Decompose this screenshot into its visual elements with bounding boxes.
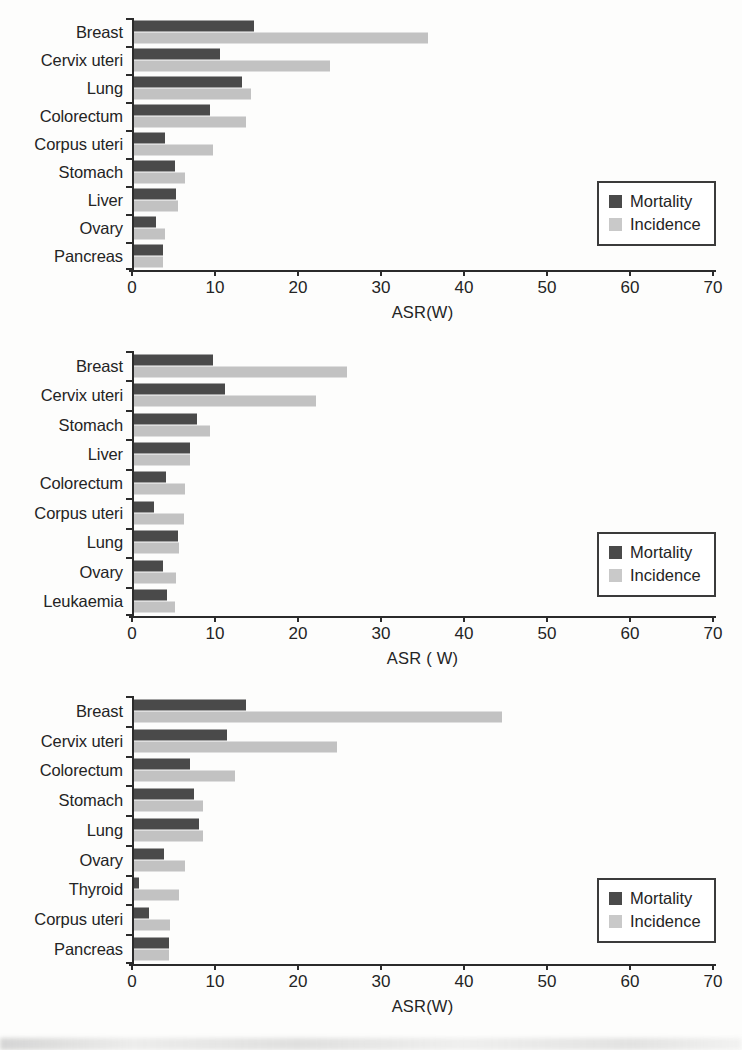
y-axis-tick (126, 74, 132, 76)
y-axis-tick (126, 439, 132, 441)
bar-mortality (134, 938, 169, 949)
legend-3: Mortality Incidence (597, 878, 716, 943)
bar-mortality (134, 908, 149, 919)
y-axis-tick (126, 756, 132, 758)
x-axis-tick (297, 964, 299, 970)
category-label: Lung (87, 820, 123, 839)
x-axis-tick-label: 10 (206, 624, 225, 644)
bar-group (134, 413, 713, 436)
bar-row: Corpus uteri (132, 498, 713, 527)
x-axis-tick (629, 964, 631, 970)
bar-mortality (134, 501, 154, 512)
category-label: Breast (76, 23, 123, 42)
bar-incidence (134, 920, 170, 931)
legend-item-incidence: Incidence (609, 213, 701, 236)
legend-label-mortality: Mortality (630, 192, 692, 211)
y-axis-tick (126, 380, 132, 382)
bar-incidence (134, 117, 246, 128)
bar-incidence (134, 257, 163, 268)
y-axis-tick (126, 242, 132, 244)
bar-incidence (134, 572, 176, 583)
y-axis-tick (126, 815, 132, 817)
x-axis-tick (214, 616, 216, 622)
bar-mortality (134, 878, 139, 889)
bar-incidence (134, 602, 175, 613)
x-axis-line-2 (129, 616, 716, 618)
x-axis-line-3 (129, 964, 716, 966)
legend-swatch-incidence-icon (609, 218, 622, 231)
bar-group (134, 443, 713, 466)
x-axis-tick-label: 30 (372, 624, 391, 644)
bar-mortality (134, 49, 220, 60)
page-edge-artifact (0, 1038, 742, 1050)
bar-group (134, 729, 713, 752)
bar-group (134, 789, 713, 812)
x-axis-tick-label: 60 (621, 278, 640, 298)
y-axis-tick (126, 102, 132, 104)
x-axis-tick-label: 70 (704, 278, 723, 298)
bar-group (134, 699, 713, 722)
bar-row: Breast (132, 351, 713, 380)
x-axis-tick-label: 10 (206, 972, 225, 992)
bar-mortality (134, 590, 167, 601)
bar-row: Cervix uteri (132, 726, 713, 756)
bar-mortality (134, 189, 176, 200)
bar-row: Lung (132, 815, 713, 845)
bar-row: Breast (132, 18, 713, 46)
category-label: Liver (88, 445, 123, 464)
x-axis-tick (546, 270, 548, 276)
bar-row: Ovary (132, 845, 713, 875)
legend-label-incidence: Incidence (630, 566, 701, 585)
bar-row: Stomach (132, 410, 713, 439)
y-axis-tick (126, 934, 132, 936)
bar-incidence (134, 201, 178, 212)
bar-row: Pancreas (132, 242, 713, 270)
legend-2: Mortality Incidence (597, 532, 716, 597)
legend-swatch-mortality-icon (609, 892, 622, 905)
bar-group (134, 21, 713, 44)
bar-group (134, 472, 713, 495)
category-label: Colorectum (40, 474, 123, 493)
category-label: Cervix uteri (41, 731, 123, 750)
x-axis-tick (297, 616, 299, 622)
category-label: Corpus uteri (34, 910, 123, 929)
category-label: Breast (76, 701, 123, 720)
bar-mortality (134, 245, 163, 256)
x-axis-tick-label: 70 (704, 972, 723, 992)
x-axis-tick-label: 20 (289, 278, 308, 298)
bar-group (134, 245, 713, 268)
x-axis-tick (131, 964, 133, 970)
y-axis-tick (126, 557, 132, 559)
category-label: Colorectum (40, 107, 123, 126)
legend-item-mortality: Mortality (609, 887, 701, 910)
x-axis-title-2: ASR ( W) (132, 649, 713, 668)
y-axis-tick (126, 845, 132, 847)
legend-swatch-mortality-icon (609, 195, 622, 208)
bar-row: Breast (132, 696, 713, 726)
category-label: Corpus uteri (34, 135, 123, 154)
bar-incidence (134, 741, 337, 752)
bar-incidence (134, 366, 347, 377)
x-axis-tick-label: 40 (455, 278, 474, 298)
bar-incidence (134, 396, 316, 407)
category-label: Pancreas (54, 247, 123, 266)
x-axis-tick (131, 270, 133, 276)
x-axis-tick (546, 616, 548, 622)
bar-incidence (134, 173, 185, 184)
bar-group (134, 105, 713, 128)
x-axis-tick (629, 616, 631, 622)
x-axis-tick-label: 30 (372, 278, 391, 298)
bar-mortality (134, 133, 165, 144)
bar-group (134, 759, 713, 782)
legend-item-incidence: Incidence (609, 564, 701, 587)
bar-row: Colorectum (132, 102, 713, 130)
bar-mortality (134, 531, 178, 542)
bar-mortality (134, 472, 166, 483)
category-label: Liver (88, 191, 123, 210)
x-axis-tick (214, 270, 216, 276)
bar-mortality (134, 729, 227, 740)
bar-row: Colorectum (132, 756, 713, 786)
bar-group (134, 818, 713, 841)
bar-mortality (134, 443, 190, 454)
legend-swatch-incidence-icon (609, 569, 622, 582)
